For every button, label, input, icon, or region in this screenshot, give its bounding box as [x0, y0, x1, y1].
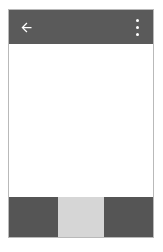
overflow-dot-middle — [136, 26, 139, 29]
overflow-dot-bottom — [136, 33, 139, 36]
device-frame — [8, 9, 154, 238]
bottom-bar — [9, 197, 153, 237]
bottom-bar-segment-left[interactable] — [9, 197, 58, 237]
app-bar — [9, 10, 153, 44]
content-placeholder-text — [9, 44, 153, 197]
arrow-back-icon — [19, 20, 34, 35]
overflow-dot-top — [136, 19, 139, 22]
content-area[interactable] — [9, 44, 153, 197]
bottom-bar-segment-center[interactable] — [58, 197, 103, 237]
back-button[interactable] — [15, 16, 37, 38]
screenshot-root — [0, 0, 163, 252]
bottom-bar-segment-right[interactable] — [104, 197, 153, 237]
overflow-menu-button[interactable] — [126, 16, 148, 38]
overflow-menu-icon — [136, 19, 139, 36]
